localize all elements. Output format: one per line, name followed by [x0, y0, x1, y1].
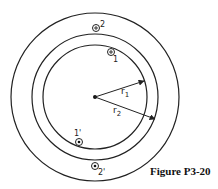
- conductor-2: 2: [93, 20, 106, 32]
- conductor-1-label: 1: [113, 55, 118, 64]
- figure-p3-20: r1 r2 2 1 1' 2' Figure P3-20: [0, 0, 218, 189]
- r2-label: r2: [113, 105, 121, 118]
- conductor-2-prime: 2': [92, 163, 106, 178]
- conductor-1: 1: [108, 49, 119, 65]
- conductor-1-prime-label: 1': [74, 129, 81, 138]
- figure-caption: Figure P3-20: [150, 165, 211, 177]
- conductor-2-label: 2: [100, 20, 105, 29]
- r1-label: r1: [121, 86, 129, 99]
- diagram-canvas: r1 r2 2 1 1' 2': [0, 0, 218, 189]
- radius-r1-arrow: [95, 81, 144, 97]
- conductor-1-prime: 1': [74, 129, 83, 146]
- conductor-2-prime-label: 2': [98, 168, 105, 177]
